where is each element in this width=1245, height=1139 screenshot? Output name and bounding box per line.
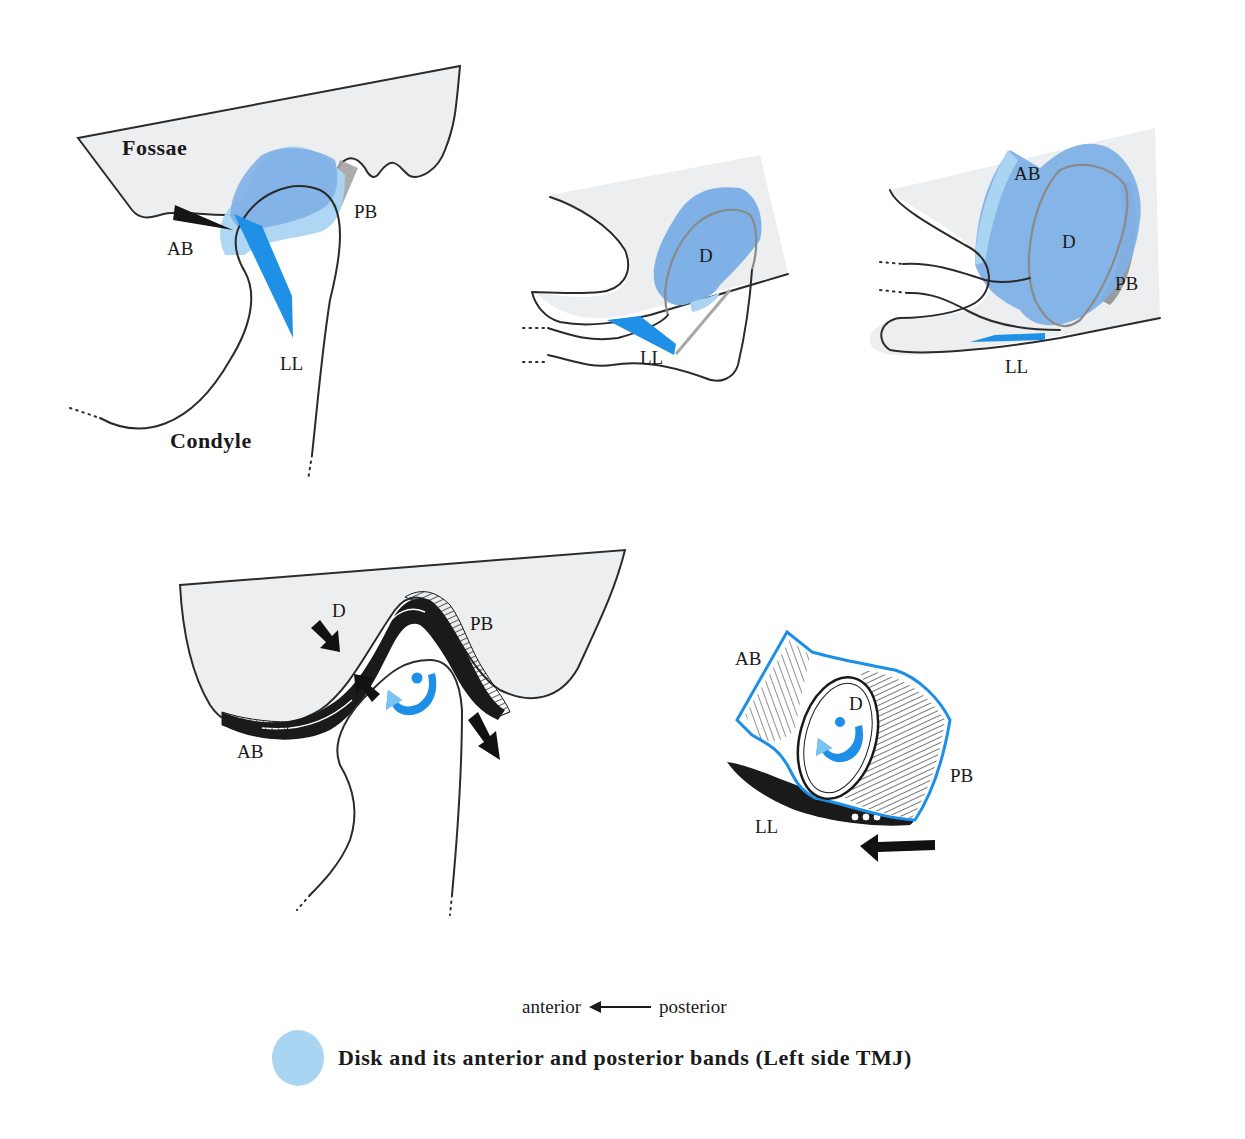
label-pb: PB: [354, 201, 377, 222]
dots-left: [297, 895, 310, 910]
rotation-center-dot: [412, 673, 423, 684]
label-pb: PB: [470, 613, 493, 634]
legend-key-text: Disk and its anterior and posterior band…: [338, 1045, 912, 1071]
panel-superior-view: AB D PB LL: [870, 128, 1160, 377]
direction-posterior: posterior: [659, 996, 727, 1018]
panel-sagittal-view: D LL: [523, 155, 788, 381]
label-fossae: Fossae: [122, 135, 187, 160]
arrow-left-icon: [589, 1001, 651, 1013]
panel-histological-section: D PB AB: [180, 550, 625, 915]
condyle-anterior-outline: [310, 765, 355, 895]
label-pb: PB: [1115, 273, 1138, 294]
label-ab: AB: [1014, 163, 1040, 184]
label-d: D: [849, 693, 863, 714]
label-d: D: [332, 600, 346, 621]
tmj-diagram: Fossae AB PB LL Condyle D LL: [0, 0, 1245, 1139]
label-condyle: Condyle: [170, 428, 252, 453]
label-ll: LL: [755, 816, 778, 837]
dots-right: [450, 895, 452, 915]
label-ll: LL: [640, 347, 663, 368]
label-ab: AB: [735, 648, 761, 669]
label-d: D: [1062, 231, 1076, 252]
panel-closed-mouth: Fossae AB PB LL Condyle: [70, 66, 460, 480]
label-ab: AB: [167, 238, 193, 259]
direction-indicator: anterior posterior: [522, 996, 727, 1018]
movement-arrow-anterior: [860, 834, 935, 862]
panel-rotated-disk-detail: AB D PB LL: [727, 632, 973, 862]
distraction-arrow: [468, 712, 500, 760]
disk-swatch-icon: [272, 1030, 324, 1086]
label-d: D: [699, 245, 713, 266]
fossa-bone: [180, 550, 625, 725]
legend-key: Disk and its anterior and posterior band…: [272, 1030, 912, 1086]
rotation-center-dot: [835, 717, 845, 727]
dots-1: [880, 262, 903, 264]
label-ll: LL: [1005, 356, 1028, 377]
condyle-trailing-dots: [70, 408, 100, 418]
neck-trailing-dots: [308, 455, 312, 480]
dots-2: [880, 290, 908, 293]
label-pb: PB: [950, 765, 973, 786]
label-ab: AB: [237, 741, 263, 762]
direction-anterior: anterior: [522, 996, 581, 1018]
label-ll: LL: [280, 353, 303, 374]
